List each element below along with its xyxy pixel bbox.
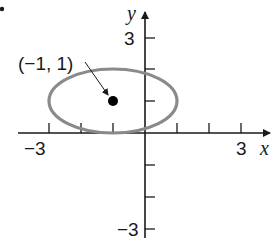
x-max-tick-label: 3 (236, 138, 247, 159)
ellipse-graph: (−1, 1) −3 3 x 3 y −3 (0, 0, 279, 240)
x-axis-label: x (259, 137, 269, 159)
center-point (108, 96, 118, 106)
bullet-dot (0, 7, 4, 11)
y-min-tick-label: −3 (117, 219, 139, 240)
point-label: (−1, 1) (18, 53, 73, 74)
y-axis-label: y (125, 2, 136, 25)
x-min-tick-label: −3 (24, 138, 46, 159)
y-max-tick-label: 3 (124, 28, 135, 49)
annotation-arrow (85, 62, 108, 95)
